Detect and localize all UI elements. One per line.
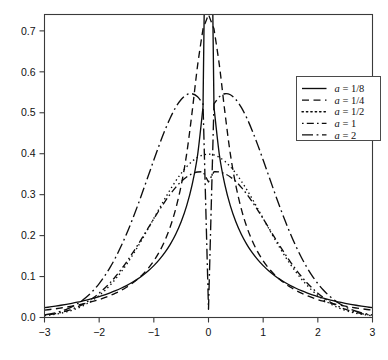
x-tick-label: 3 [370, 326, 376, 338]
y-tick-label: 0.7 [21, 25, 36, 37]
legend-label: a = 1/2 [335, 106, 365, 117]
x-tick-label: −2 [93, 326, 105, 338]
y-tick-label: 0.2 [21, 229, 36, 241]
y-tick-label: 0.5 [21, 106, 36, 118]
y-tick-label: 0.3 [21, 188, 36, 200]
legend-label: a = 1/4 [335, 95, 366, 106]
legend-label: a = 1 [335, 118, 357, 129]
legend-label: a = 2 [335, 130, 357, 141]
legend-label: a = 1/8 [335, 83, 365, 94]
x-tick-label: −1 [148, 326, 160, 338]
x-tick-label: 1 [260, 326, 266, 338]
density-family-chart: 0.00.10.20.30.40.50.60.7 −3−2−10123 a = … [0, 0, 388, 360]
y-tick-label: 0.4 [21, 147, 36, 159]
x-tick-label: 0 [206, 326, 212, 338]
y-tick-label: 0.0 [21, 311, 36, 323]
legend: a = 1/8a = 1/4a = 1/2a = 1a = 2 [297, 77, 381, 141]
x-tick-label: 2 [315, 326, 321, 338]
x-tick-label: −3 [39, 326, 51, 338]
y-tick-label: 0.1 [21, 270, 36, 282]
y-tick-label: 0.6 [21, 66, 36, 78]
